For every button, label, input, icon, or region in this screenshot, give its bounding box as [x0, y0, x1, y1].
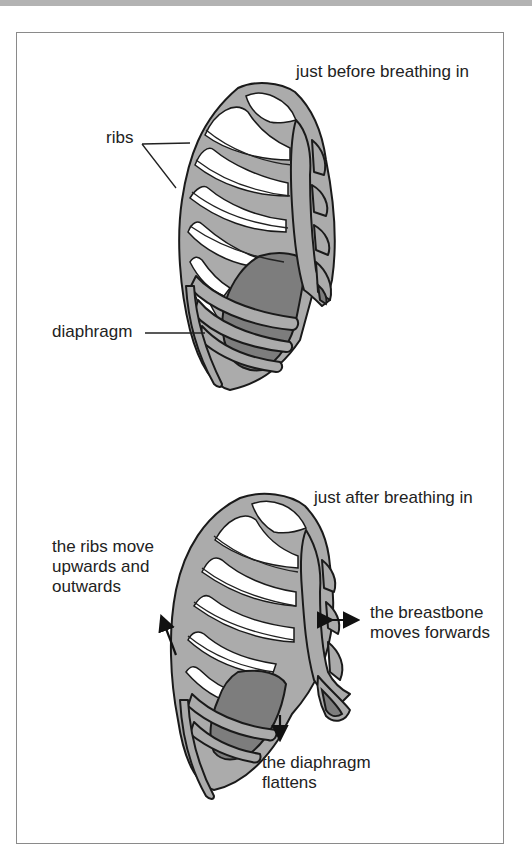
panel-title-after: just after breathing in [314, 488, 473, 508]
ribcage-before [179, 83, 335, 390]
panel-title-before: just before breathing in [296, 62, 469, 82]
label-breastbone: the breastbone moves forwards [370, 603, 490, 643]
ribs-leader-line [142, 143, 190, 188]
label-diaphragm-flattens: the diaphragm flattens [262, 753, 371, 793]
label-ribs: ribs [106, 128, 133, 148]
label-ribs-move: the ribs move upwards and outwards [52, 537, 154, 597]
label-diaphragm: diaphragm [52, 322, 132, 342]
